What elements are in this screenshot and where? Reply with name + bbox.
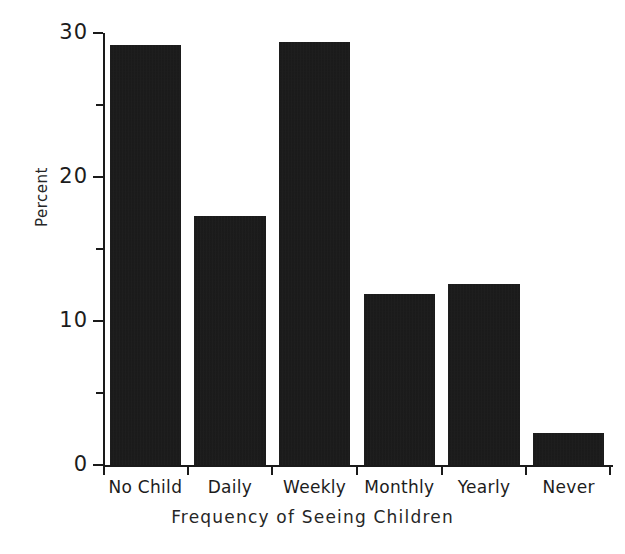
y-axis-tick-label: 20 (44, 166, 88, 187)
y-axis-tick-label: 30 (44, 22, 88, 43)
x-axis-title: Frequency of Seeing Children (0, 507, 625, 527)
x-axis-tick (103, 466, 105, 475)
x-axis-tick-label: Weekly (272, 477, 357, 497)
x-axis-tick (187, 466, 189, 475)
x-axis-tick-label: Yearly (442, 477, 527, 497)
x-axis-ticks (103, 466, 613, 476)
x-axis-tick (525, 466, 527, 475)
x-axis-tick-label: Daily (188, 477, 273, 497)
bar (533, 433, 605, 465)
bar (279, 42, 351, 465)
bar (364, 294, 436, 465)
y-axis-major-tick (93, 32, 103, 34)
x-axis-tick (271, 466, 273, 475)
y-axis-tick-labels: 0102030 (44, 0, 88, 554)
x-axis-tick-labels: No ChildDailyWeeklyMonthlyYearlyNever (103, 477, 613, 503)
x-axis-tick-label: No Child (103, 477, 188, 497)
y-axis-tick-label: 10 (44, 310, 88, 331)
y-axis-major-tick (93, 464, 103, 466)
x-axis-tick (609, 466, 611, 475)
bar (194, 216, 266, 465)
y-axis-tick-label: 0 (44, 454, 88, 475)
x-axis-tick-label: Monthly (357, 477, 442, 497)
x-axis-tick (441, 466, 443, 475)
y-axis-minor-tick (96, 392, 103, 394)
bar (110, 45, 182, 465)
y-axis-major-tick (93, 176, 103, 178)
bar (448, 284, 520, 465)
x-axis-tick-label: Never (526, 477, 611, 497)
y-axis-minor-tick (96, 104, 103, 106)
x-axis-tick (356, 466, 358, 475)
bar-chart-figure: Percent 0102030 No ChildDailyWeeklyMonth… (0, 0, 625, 554)
y-axis-minor-tick (96, 248, 103, 250)
y-axis-major-tick (93, 320, 103, 322)
plot-area (103, 33, 611, 465)
